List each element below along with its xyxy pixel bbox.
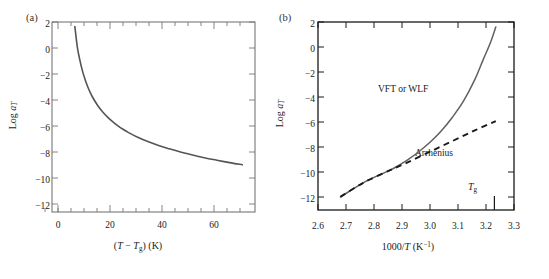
panel-b-arrhenius-curve: [340, 121, 495, 197]
panel-b-plot: [275, 0, 549, 279]
panel-b: (b) 2 0 −2 −4 −6 −8 −10 −12 2.6 2.7 2.8 …: [275, 0, 549, 279]
panel-b-vft-curve: [340, 27, 495, 197]
panel-b-yticks: [318, 22, 514, 197]
panel-a: (a) 2 0 −2 −4 −6 −8 −10 −12 0 20 40 60 (…: [0, 0, 275, 279]
panel-b-xticks: [318, 22, 514, 210]
panel-a-xticks: [45, 22, 240, 212]
figure-container: (a) 2 0 −2 −4 −6 −8 −10 −12 0 20 40 60 (…: [0, 0, 549, 279]
panel-b-frame: [318, 22, 514, 210]
panel-a-yticks: [52, 22, 255, 204]
panel-a-plot: [0, 0, 275, 279]
panel-a-frame: [52, 22, 255, 212]
panel-a-wlf-curve: [75, 26, 242, 164]
